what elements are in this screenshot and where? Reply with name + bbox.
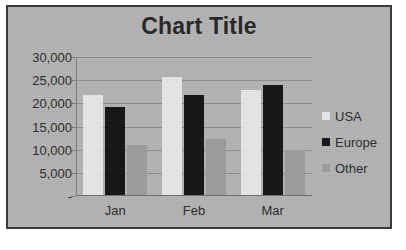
bar-europe-jan[interactable] <box>105 107 125 195</box>
y-axis-tick-label: 20,000 <box>8 96 72 111</box>
legend-label: USA <box>335 109 362 124</box>
chart-legend[interactable]: USAEuropeOther <box>322 103 390 181</box>
legend-label: Other <box>335 161 368 176</box>
bar-group <box>233 56 312 195</box>
x-axis-tick-label: Mar <box>233 203 312 218</box>
legend-label: Europe <box>335 135 377 150</box>
bar-other-mar[interactable] <box>285 150 305 195</box>
bar-usa-jan[interactable] <box>83 95 103 195</box>
bar-other-jan[interactable] <box>127 145 147 195</box>
bar-usa-feb[interactable] <box>162 77 182 195</box>
legend-item-usa[interactable]: USA <box>322 103 390 129</box>
x-axis-labels: JanFebMar <box>76 203 312 223</box>
y-axis-labels: -5,00010,00015,00020,00025,00030,000 <box>8 57 72 196</box>
y-axis-tick-label: 5,000 <box>8 165 72 180</box>
x-axis-tick-label: Jan <box>76 203 155 218</box>
chart-title: Chart Title <box>8 11 390 41</box>
x-axis-line <box>76 195 312 196</box>
y-axis-tick-label: 25,000 <box>8 73 72 88</box>
legend-item-europe[interactable]: Europe <box>322 129 390 155</box>
bar-europe-mar[interactable] <box>263 85 283 195</box>
bar-group <box>155 56 234 195</box>
bar-usa-mar[interactable] <box>241 90 261 195</box>
chart-container[interactable]: Chart Title -5,00010,00015,00020,00025,0… <box>6 5 392 229</box>
legend-item-other[interactable]: Other <box>322 155 390 181</box>
y-axis-tick-label: 15,000 <box>8 119 72 134</box>
plot-area[interactable] <box>76 57 312 196</box>
y-axis-tick-label: - <box>8 189 72 204</box>
bar-other-feb[interactable] <box>206 139 226 195</box>
legend-swatch-icon <box>322 164 330 172</box>
bar-group <box>76 56 155 195</box>
legend-swatch-icon <box>322 138 330 146</box>
legend-swatch-icon <box>322 112 330 120</box>
y-axis-tick-label: 30,000 <box>8 50 72 65</box>
x-axis-tick-label: Feb <box>155 203 234 218</box>
bar-europe-feb[interactable] <box>184 95 204 195</box>
y-axis-tick-label: 10,000 <box>8 142 72 157</box>
y-axis-tick <box>71 196 76 197</box>
